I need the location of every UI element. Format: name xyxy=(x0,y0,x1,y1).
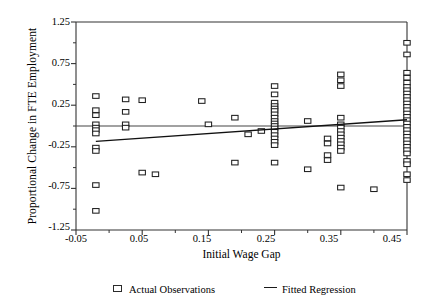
data-point-marker xyxy=(338,185,344,190)
data-point-marker xyxy=(338,149,344,154)
data-point-marker xyxy=(271,160,277,165)
data-point-marker xyxy=(232,160,238,165)
legend-item-fitted-regression: Fitted Regression xyxy=(264,283,356,295)
data-point-marker xyxy=(139,170,145,175)
data-point-marker xyxy=(271,84,277,89)
data-point-marker xyxy=(271,92,277,97)
data-point-marker xyxy=(122,110,128,115)
axis-ticks xyxy=(71,22,407,235)
data-point-marker xyxy=(404,178,410,183)
legend-label-actual-observations: Actual Observations xyxy=(129,284,215,295)
data-point-marker xyxy=(93,183,99,188)
data-point-marker xyxy=(122,97,128,102)
data-point-marker xyxy=(199,99,205,104)
data-point-marker xyxy=(404,70,410,75)
data-point-marker xyxy=(338,72,344,77)
data-point-marker xyxy=(404,41,410,46)
data-point-marker xyxy=(93,108,99,113)
open-square-icon xyxy=(113,285,122,292)
data-point-marker xyxy=(93,94,99,99)
data-point-marker xyxy=(324,153,330,158)
plot-area xyxy=(0,0,422,303)
data-point-marker xyxy=(93,113,99,118)
data-point-marker xyxy=(205,122,211,127)
data-point-marker xyxy=(232,115,238,120)
data-point-marker xyxy=(93,131,99,136)
data-point-marker xyxy=(404,162,410,167)
data-point-marker xyxy=(93,149,99,154)
data-point-marker xyxy=(324,136,330,141)
data-point-marker xyxy=(122,125,128,130)
data-point-marker xyxy=(324,141,330,146)
data-point-marker xyxy=(93,209,99,214)
data-point-marker xyxy=(338,78,344,83)
data-point-marker xyxy=(245,132,251,137)
line-icon xyxy=(264,287,277,288)
regression-line xyxy=(96,120,407,142)
data-point-marker xyxy=(404,75,410,80)
data-point-marker xyxy=(152,172,158,177)
data-point-marker xyxy=(271,143,277,148)
data-point-marker xyxy=(338,84,344,89)
data-point-marker xyxy=(324,158,330,163)
data-point-marker xyxy=(139,98,145,103)
legend-item-actual-observations: Actual Observations xyxy=(113,283,215,295)
scatter-chart-figure: Proportional Change in FTE Employment In… xyxy=(0,0,422,303)
data-point-marker xyxy=(404,151,410,156)
chart-legend: Actual Observations Fitted Regression xyxy=(0,283,422,301)
fitted-regression-line xyxy=(96,120,407,142)
data-point-marker xyxy=(338,115,344,120)
data-point-marker xyxy=(305,119,311,124)
data-point-marker xyxy=(305,167,311,172)
data-point-marker xyxy=(404,52,410,57)
data-points xyxy=(93,41,411,214)
data-point-marker xyxy=(404,172,410,177)
data-point-marker xyxy=(371,187,377,192)
legend-label-fitted-regression: Fitted Regression xyxy=(282,284,356,295)
